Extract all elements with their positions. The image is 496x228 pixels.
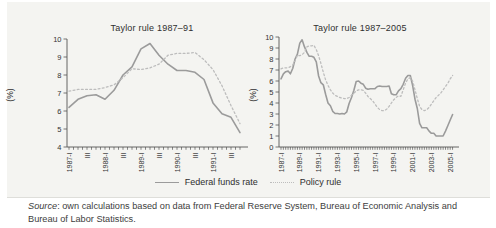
x-tick-label: 2001-I — [409, 152, 416, 172]
dotted-line-swatch-icon — [270, 182, 294, 183]
x-tick-label: 1993-I — [334, 152, 341, 172]
axis-lines — [279, 37, 459, 147]
x-tick-label: 1991-I — [210, 152, 217, 172]
x-tick-label: 1987-I — [66, 152, 73, 172]
x-tick-label: 1989-I — [138, 152, 145, 172]
legend-item-policy-rule: Policy rule — [270, 177, 342, 187]
y-tick-label: 8 — [57, 71, 61, 80]
y-tick-label: 4 — [57, 143, 61, 152]
left-chart-title: Taylor rule 1987–91 — [62, 23, 242, 33]
x-tick-label: 1999-I — [390, 152, 397, 172]
source-label: Source — [28, 201, 57, 211]
y-tick-label: 9 — [57, 53, 61, 62]
x-tick-label: 2003-I — [428, 152, 435, 172]
y-tick-label: 6 — [269, 77, 273, 86]
left-chart: 109876541987-IIII1988-IIII1989-IIII1990-… — [53, 35, 248, 173]
x-tick-label: III — [156, 152, 163, 158]
legend: Federal funds rate Policy rule — [8, 177, 488, 187]
solid-line-swatch-icon — [155, 182, 179, 183]
x-tick-label: 1997-I — [372, 152, 379, 172]
axis-lines — [67, 39, 248, 147]
x-tick-label: III — [120, 152, 127, 158]
policy-rule-line — [281, 45, 453, 110]
x-tick-label: 1989-I — [296, 152, 303, 172]
right-y-axis-label: (%) — [248, 80, 258, 110]
x-tick-label: 1995-I — [353, 152, 360, 172]
source-text: : own calculations based on data from Fe… — [28, 201, 457, 224]
y-tick-label: 7 — [269, 66, 273, 75]
y-tick-label: 0 — [269, 143, 273, 152]
y-tick-label: 10 — [265, 33, 273, 42]
policy-rule-line — [69, 53, 240, 124]
y-tick-label: 1 — [269, 132, 273, 141]
fed-funds-line — [69, 44, 240, 133]
source-note: Source: own calculations based on data f… — [28, 200, 480, 226]
y-tick-label: 9 — [269, 44, 273, 53]
charts-canvas: 109876541987-IIII1988-IIII1989-IIII1990-… — [0, 0, 496, 228]
x-tick-label: 1987-I — [278, 152, 285, 172]
y-tick-label: 10 — [53, 35, 61, 44]
legend-label-fed-funds: Federal funds rate — [185, 177, 258, 187]
y-tick-label: 2 — [269, 121, 273, 130]
y-tick-label: 7 — [57, 89, 61, 98]
right-chart: 1098765432101987-I1989-I1991-I1993-I1995… — [265, 33, 459, 173]
y-tick-label: 8 — [269, 55, 273, 64]
left-y-axis-label: (%) — [5, 80, 15, 110]
y-tick-label: 5 — [269, 88, 273, 97]
legend-label-policy-rule: Policy rule — [300, 177, 342, 187]
y-tick-label: 4 — [269, 99, 273, 108]
x-tick-label: 1988-I — [102, 152, 109, 172]
x-tick-label: III — [228, 152, 235, 158]
fed-funds-line — [281, 40, 453, 136]
legend-item-fed-funds: Federal funds rate — [155, 177, 258, 187]
y-tick-label: 5 — [57, 125, 61, 134]
x-tick-label: III — [84, 152, 91, 158]
x-tick-label: 2005-I — [447, 152, 454, 172]
right-chart-title: Taylor rule 1987–2005 — [270, 23, 450, 33]
x-tick-label: 1990-I — [174, 152, 181, 172]
y-tick-label: 6 — [57, 107, 61, 116]
x-tick-label: 1991-I — [315, 152, 322, 172]
x-tick-label: III — [192, 152, 199, 158]
y-tick-label: 3 — [269, 110, 273, 119]
